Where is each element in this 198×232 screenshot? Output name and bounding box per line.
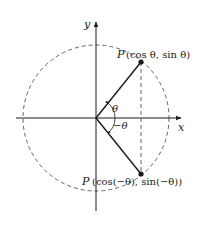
point-upper <box>138 59 143 64</box>
angle-label-positive: θ <box>112 103 118 114</box>
point-lower-label: P (cos(−θ), sin(−θ)) <box>81 175 182 188</box>
svg-text:P: P <box>81 175 90 188</box>
point-upper-label: P (cos θ, sin θ) <box>116 48 190 61</box>
angle-label-negative: −θ <box>113 120 127 131</box>
svg-text:P: P <box>116 48 125 61</box>
y-axis-label: y <box>83 18 91 31</box>
svg-text:(cos(−θ), sin(−θ)): (cos(−θ), sin(−θ)) <box>92 176 182 187</box>
x-axis-label: x <box>178 121 185 134</box>
unit-circle-diagram: y x θ −θ P (cos θ, sin θ) P (cos(−θ), si… <box>0 0 198 232</box>
radius-upper <box>96 62 141 118</box>
svg-text:(cos θ, sin θ): (cos θ, sin θ) <box>126 49 190 60</box>
